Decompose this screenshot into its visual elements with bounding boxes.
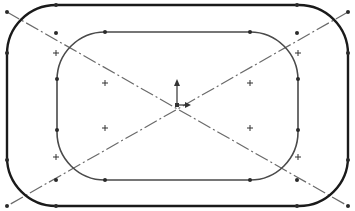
sketch-canvas[interactable] [0,0,355,211]
sketch-point[interactable] [55,77,59,81]
origin-arrow-up-icon [174,79,180,86]
sketch-point[interactable] [346,158,350,162]
arc-center-plus-icon [102,125,108,131]
sketch-point[interactable] [296,77,300,81]
sketch-point[interactable] [54,204,58,208]
sketch-point[interactable] [346,51,350,55]
arc-center-plus-icon [247,125,253,131]
sketch-drawing[interactable] [0,0,355,211]
sketch-point[interactable] [54,3,58,7]
sketch-point[interactable] [5,51,9,55]
sketch-point[interactable] [54,31,58,35]
arc-center-plus-icon [53,50,59,56]
sketch-point[interactable] [248,178,252,182]
arc-center-plus-icon [295,154,301,160]
sketch-point[interactable] [346,204,350,208]
sketch-point[interactable] [54,178,58,182]
arc-center-plus-icon [102,80,108,86]
sketch-point[interactable] [5,158,9,162]
sketch-point[interactable] [248,30,252,34]
arc-center-plus-icon [295,50,301,56]
sketch-point[interactable] [5,10,9,14]
sketch-point[interactable] [103,30,107,34]
sketch-point[interactable] [5,204,9,208]
sketch-point[interactable] [346,10,350,14]
sketch-point[interactable] [55,128,59,132]
sketch-point[interactable] [295,31,299,35]
sketch-point[interactable] [295,178,299,182]
origin-point-icon[interactable] [175,103,179,107]
sketch-point[interactable] [296,128,300,132]
sketch-point[interactable] [103,178,107,182]
sketch-point[interactable] [295,204,299,208]
sketch-point[interactable] [295,3,299,7]
arc-center-plus-icon [247,80,253,86]
arc-center-plus-icon [53,154,59,160]
